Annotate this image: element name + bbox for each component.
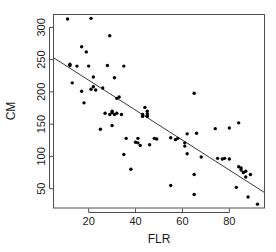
y-tick-label: 300 xyxy=(35,18,47,36)
data-point xyxy=(256,202,259,205)
data-point xyxy=(94,88,97,91)
data-point xyxy=(101,86,104,89)
x-tick-label: 60 xyxy=(176,215,188,227)
data-point xyxy=(183,144,186,147)
data-point xyxy=(80,45,83,48)
data-point xyxy=(195,131,198,134)
y-axis-title: CM xyxy=(4,102,18,121)
data-point xyxy=(185,132,188,135)
data-point xyxy=(75,64,78,67)
data-point xyxy=(122,64,125,67)
y-tick-label: 50 xyxy=(35,183,47,195)
data-point xyxy=(169,184,172,187)
x-axis-title: FLR xyxy=(148,232,171,246)
data-point xyxy=(244,175,247,178)
data-point xyxy=(237,121,240,124)
data-point xyxy=(185,152,188,155)
data-point xyxy=(200,155,203,158)
x-tick-label: 80 xyxy=(223,215,235,227)
data-point xyxy=(108,34,111,37)
data-point xyxy=(176,137,179,140)
data-point xyxy=(192,193,195,196)
data-point xyxy=(113,76,116,79)
data-point xyxy=(139,144,142,147)
data-point xyxy=(99,128,102,131)
data-point xyxy=(92,85,95,88)
x-tick-label: 20 xyxy=(83,215,95,227)
y-tick-label: 150 xyxy=(35,115,47,133)
data-point xyxy=(228,126,231,129)
data-point xyxy=(136,137,139,140)
y-tick-label: 100 xyxy=(35,147,47,165)
data-point xyxy=(146,115,149,118)
data-point xyxy=(82,101,85,104)
data-point xyxy=(103,111,106,114)
data-point xyxy=(85,50,88,53)
data-point xyxy=(68,62,71,65)
y-tick-label: 200 xyxy=(35,83,47,101)
data-point xyxy=(129,168,132,171)
data-point xyxy=(246,195,249,198)
data-point xyxy=(117,95,120,98)
data-point xyxy=(136,141,139,144)
data-point xyxy=(80,90,83,93)
data-point xyxy=(89,17,92,20)
data-point xyxy=(148,143,151,146)
data-point xyxy=(249,173,252,176)
data-point xyxy=(228,157,231,160)
data-point xyxy=(89,88,92,91)
data-point xyxy=(239,168,242,171)
data-point xyxy=(92,75,95,78)
scatter-plot-figure: 50100150200250300 20406080 FLR CM xyxy=(0,0,276,252)
data-point xyxy=(143,106,146,109)
data-point xyxy=(110,124,113,127)
data-point xyxy=(124,137,127,140)
data-point xyxy=(115,111,118,114)
y-tick-label: 250 xyxy=(35,50,47,68)
data-point xyxy=(106,64,109,67)
data-point xyxy=(183,141,186,144)
data-point xyxy=(120,113,123,116)
data-point xyxy=(192,91,195,94)
data-point xyxy=(169,136,172,139)
data-point xyxy=(66,17,69,20)
data-point xyxy=(71,81,74,84)
data-point xyxy=(216,157,219,160)
data-point xyxy=(214,127,217,130)
data-point xyxy=(87,64,90,67)
data-point xyxy=(141,113,144,116)
data-point xyxy=(192,173,195,176)
x-tick-label: 40 xyxy=(129,215,141,227)
data-point xyxy=(223,157,226,160)
data-point xyxy=(235,186,238,189)
data-point xyxy=(244,170,247,173)
data-point xyxy=(122,153,125,156)
plot-canvas: 50100150200250300 20406080 FLR CM xyxy=(0,0,276,252)
data-point xyxy=(155,137,158,140)
